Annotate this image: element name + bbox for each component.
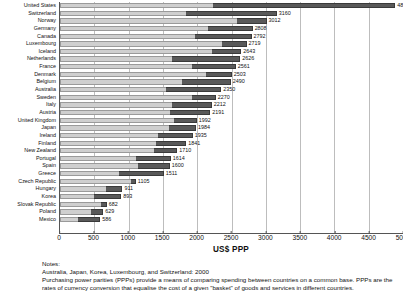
category-label-row: Czech Republic xyxy=(0,178,59,186)
x-tick-mark xyxy=(197,231,198,234)
category-label-row: Canada xyxy=(0,33,59,41)
bar-value-label: 682 xyxy=(107,201,118,209)
category-label-mexico: Mexico xyxy=(0,216,56,224)
bar-row: 1984 xyxy=(60,124,403,132)
bar-value-label: 1710 xyxy=(177,147,191,155)
bar xyxy=(60,79,231,84)
bar-segment-public xyxy=(60,179,131,184)
category-label-czech-republic: Czech Republic xyxy=(0,178,56,186)
bar xyxy=(60,118,197,123)
category-label-row: Australia xyxy=(0,86,59,94)
bar-value-label: 2561 xyxy=(236,63,250,71)
bar-segment-public xyxy=(60,141,156,146)
bar-segment-public xyxy=(60,34,195,39)
bar xyxy=(60,125,196,130)
bar-segment-private xyxy=(94,194,122,199)
bar-segment-public xyxy=(60,202,101,207)
x-tick-mark xyxy=(231,231,232,234)
bar-segment-public xyxy=(60,209,91,214)
bar-segment-public xyxy=(60,156,136,161)
bar-row: 2350 xyxy=(60,86,403,94)
bar-value-label: 629 xyxy=(103,208,114,216)
category-label-italy: Italy xyxy=(0,101,56,109)
bar-row: 586 xyxy=(60,216,403,224)
bar-row: 2626 xyxy=(60,55,403,63)
category-label-luxembourg: Luxembourg xyxy=(0,40,56,48)
category-label-row: Ireland xyxy=(0,132,59,140)
bar-segment-public xyxy=(60,217,78,222)
notes-line-2: Purchasing power parities (PPPs) provide… xyxy=(42,276,394,292)
category-label-row: Italy xyxy=(0,101,59,109)
bar-value-label: 2792 xyxy=(252,33,266,41)
x-tick-label: 500 xyxy=(88,234,99,241)
bar-segment-private xyxy=(208,26,252,31)
bar xyxy=(60,202,107,207)
bar-segment-private xyxy=(91,209,103,214)
bar-segment-private xyxy=(156,141,186,146)
x-tick-mark xyxy=(334,231,335,234)
bar-row: 1614 xyxy=(60,155,403,163)
bar-row: 4887 xyxy=(60,2,403,10)
bar-value-label: 2503 xyxy=(232,71,246,79)
bar xyxy=(60,156,171,161)
bar-segment-private xyxy=(106,186,123,191)
bar-row: 2212 xyxy=(60,101,403,109)
x-tick-mark xyxy=(128,231,129,234)
bar-row: 2643 xyxy=(60,48,403,56)
category-label-australia: Australia xyxy=(0,86,56,94)
category-label-row: New Zealand xyxy=(0,147,59,155)
bar-segment-private xyxy=(166,87,221,92)
category-label-austria: Austria xyxy=(0,109,56,117)
bar-segment-public xyxy=(60,133,158,138)
bar-segment-private xyxy=(222,41,246,46)
bar-segment-public xyxy=(60,72,206,77)
bar-value-label: 2350 xyxy=(221,86,235,94)
bar-value-label: 2490 xyxy=(231,78,245,86)
bar-segment-private xyxy=(172,56,240,61)
bar-row: 1600 xyxy=(60,162,403,170)
bar-segment-private xyxy=(212,49,241,54)
category-label-denmark: Denmark xyxy=(0,71,56,79)
bar xyxy=(60,49,241,54)
category-label-row: Slovak Republic xyxy=(0,201,59,209)
bar-segment-public xyxy=(60,125,169,130)
x-tick-label: 4500 xyxy=(361,234,376,241)
bar-segment-public xyxy=(60,110,170,115)
category-label-netherlands: Netherlands xyxy=(0,55,56,63)
bar-value-label: 2643 xyxy=(241,48,255,56)
category-label-ireland: Ireland xyxy=(0,132,56,140)
x-tick-label: 3000 xyxy=(258,234,273,241)
bar-value-label: 1992 xyxy=(197,117,211,125)
category-label-germany: Germany xyxy=(0,25,56,33)
bar-segment-public xyxy=(60,56,172,61)
bar-value-label: 2808 xyxy=(253,25,267,33)
x-tick-mark xyxy=(59,231,60,234)
category-label-united-kingdom: United Kingdom xyxy=(0,117,56,125)
category-label-switzerland: Switzerland xyxy=(0,10,56,18)
bar-segment-public xyxy=(60,171,119,176)
category-label-row: Finland xyxy=(0,140,59,148)
bar xyxy=(60,18,267,23)
category-label-row: Iceland xyxy=(0,48,59,56)
category-label-belgium: Belgium xyxy=(0,78,56,86)
x-tick-mark xyxy=(369,231,370,234)
bar-segment-private xyxy=(172,102,211,107)
bar-segment-public xyxy=(60,87,166,92)
bar-segment-public xyxy=(60,11,186,16)
x-tick-label: 1000 xyxy=(120,234,135,241)
bar-segment-private xyxy=(195,34,252,39)
category-label-japan: Japan xyxy=(0,124,56,132)
bar-segment-private xyxy=(136,156,170,161)
bar-segment-public xyxy=(60,49,212,54)
notes-block: Notes: Australia, Japan, Korea, Luxembou… xyxy=(42,260,394,292)
bar-segment-public xyxy=(60,163,138,168)
bar-segment-public xyxy=(60,186,106,191)
bar-row: 2808 xyxy=(60,25,403,33)
bar-value-label: 2191 xyxy=(210,109,224,117)
bar-segment-private xyxy=(78,217,100,222)
bar xyxy=(60,148,177,153)
bar-value-label: 4887 xyxy=(395,2,403,10)
bar-value-label: 911 xyxy=(122,185,133,193)
bar-value-label: 1600 xyxy=(170,162,184,170)
category-label-finland: Finland xyxy=(0,140,56,148)
